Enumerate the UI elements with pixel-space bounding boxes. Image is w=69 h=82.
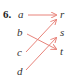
domain-label-d: d [17, 65, 23, 77]
mapping-diagram: 6. a b c d r s t [0, 0, 69, 82]
domain-label-c: c [17, 46, 22, 58]
range-label-s: s [60, 26, 64, 38]
range-label-r: r [60, 8, 64, 20]
problem-number: 6. [3, 8, 11, 20]
arrow-d-to-s [26, 38, 56, 70]
domain-label-b: b [17, 26, 23, 38]
domain-label-a: a [18, 8, 24, 20]
range-label-t: t [60, 45, 63, 57]
